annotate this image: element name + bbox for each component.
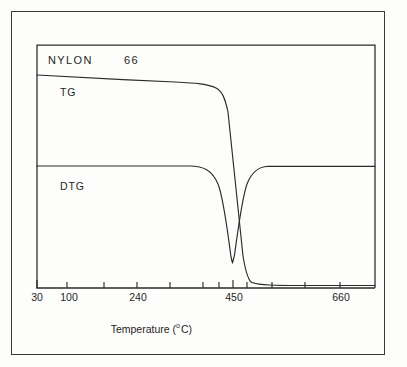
x-axis-title: Temperature ( o C) <box>111 322 192 335</box>
figure-root: 30 100 240 450 660 NYLON 66 TG DTG Tempe… <box>0 0 407 367</box>
dtg-series-label: DTG <box>60 180 85 192</box>
x-tick-label-240: 240 <box>129 291 147 303</box>
x-tick-label-100: 100 <box>60 291 78 303</box>
sample-name-label: NYLON <box>48 54 93 66</box>
sample-grade-label: 66 <box>124 54 139 66</box>
dtg-curve <box>37 166 375 263</box>
thermogram-plot: 30 100 240 450 660 NYLON 66 TG DTG Tempe… <box>0 0 407 367</box>
x-tick-label-660: 660 <box>332 291 350 303</box>
tg-series-label: TG <box>60 86 76 98</box>
x-axis-ticks <box>37 280 340 288</box>
svg-text:C): C) <box>181 323 192 335</box>
tg-curve <box>37 75 375 286</box>
x-tick-label-30: 30 <box>31 291 43 303</box>
svg-text:Temperature (: Temperature ( <box>111 323 177 335</box>
svg-text:o: o <box>176 322 180 329</box>
x-tick-label-450: 450 <box>225 291 243 303</box>
